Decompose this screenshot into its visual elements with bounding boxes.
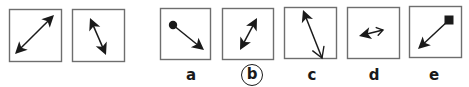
figure-box	[10, 10, 62, 62]
option-figure-c	[285, 8, 337, 59]
option-label-a[interactable]: a	[179, 66, 203, 86]
example-figure-2	[73, 10, 125, 62]
figure-box	[285, 8, 337, 59]
option-label-e[interactable]: e	[422, 66, 446, 86]
option-label-d[interactable]: d	[362, 66, 386, 86]
figure-box	[161, 9, 211, 60]
option-figure-a	[161, 9, 211, 60]
option-figure-d	[348, 8, 400, 59]
option-figure-e	[410, 7, 462, 58]
option-label-b-selected[interactable]: b	[241, 64, 263, 86]
example-figure-1	[10, 10, 62, 62]
analogy-puzzle: a b c d e	[0, 0, 469, 87]
example-pair	[10, 10, 125, 62]
dot-endpoint-icon	[169, 21, 177, 29]
square-endpoint-icon	[445, 16, 454, 25]
option-figure-b	[223, 9, 274, 60]
puzzle-figure	[0, 0, 469, 87]
figure-box	[73, 10, 125, 62]
answer-options	[161, 7, 462, 60]
option-label-c[interactable]: c	[300, 66, 324, 86]
